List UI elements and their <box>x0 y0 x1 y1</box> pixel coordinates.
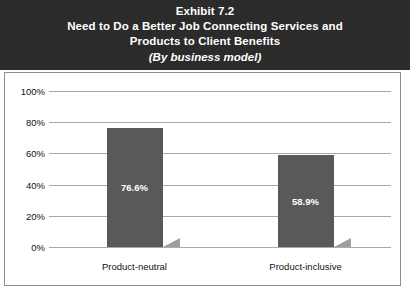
chart-subtitle: (By business model) <box>0 49 410 65</box>
chart-title-line-1: Need to Do a Better Job Connecting Servi… <box>0 19 410 34</box>
chart-title-banner: Exhibit 7.2 Need to Do a Better Job Conn… <box>0 0 410 70</box>
chart-title-line-2: Products to Client Benefits <box>0 34 410 49</box>
gridline <box>49 216 391 217</box>
gridline <box>49 247 391 248</box>
y-axis-tick-label: 100% <box>5 86 45 97</box>
gridline <box>49 153 391 154</box>
y-axis-tick-label: 20% <box>5 210 45 221</box>
bar-shadow <box>334 238 351 247</box>
gridline <box>49 91 391 92</box>
y-axis-tick-label: 0% <box>5 242 45 253</box>
y-axis-tick-label: 60% <box>5 148 45 159</box>
bar-shadow <box>163 238 180 247</box>
exhibit-chart-figure: Exhibit 7.2 Need to Do a Better Job Conn… <box>0 0 410 291</box>
gridline <box>49 122 391 123</box>
x-axis-category-label: Product-inclusive <box>269 261 341 272</box>
y-axis-tick-label: 40% <box>5 179 45 190</box>
bar-value-label: 76.6% <box>121 182 148 193</box>
x-axis-category-label: Product-neutral <box>102 261 167 272</box>
bar-value-label: 58.9% <box>292 196 319 207</box>
plot-frame: 0%20%40%60%80%100%76.6%Product-neutral58… <box>4 72 401 286</box>
y-axis-tick-label: 80% <box>5 117 45 128</box>
plot-area: 0%20%40%60%80%100%76.6%Product-neutral58… <box>5 73 402 287</box>
gridline <box>49 185 391 186</box>
exhibit-number: Exhibit 7.2 <box>0 4 410 19</box>
